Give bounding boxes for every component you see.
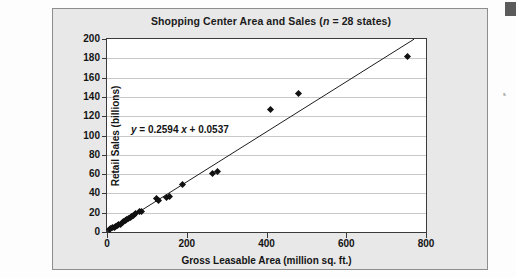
y-axis-tick-label: 80	[60, 149, 100, 160]
y-axis-tick-label: 140	[60, 91, 100, 102]
x-axis-tick-label: 0	[82, 238, 132, 249]
x-axis-tick-mark	[267, 233, 268, 238]
chart-title: Shopping Center Area and Sales (n = 28 s…	[53, 15, 489, 27]
chart-title-suffix: = 28 states)	[329, 15, 391, 27]
regression-equation-annotation: y = 0.2594 x + 0.0537	[131, 124, 229, 135]
y-axis-tick-label: 100	[60, 130, 100, 141]
y-axis-tick-label: 0	[60, 226, 100, 237]
y-axis-tick-label: 20	[60, 207, 100, 218]
figure-container: Shopping Center Area and Sales (n = 28 s…	[52, 8, 488, 270]
x-axis-tick-mark	[346, 233, 347, 238]
y-axis-tick-label: 160	[60, 72, 100, 83]
data-point	[295, 89, 302, 96]
x-axis-tick-label: 400	[242, 238, 292, 249]
equation-y-variable: y	[131, 124, 137, 135]
data-point	[404, 53, 411, 60]
x-axis-tick-mark	[187, 233, 188, 238]
x-axis-tick-mark	[426, 233, 427, 238]
data-point	[179, 181, 186, 188]
margin-marker-block	[505, 2, 516, 16]
y-axis-tick-label: 180	[60, 52, 100, 63]
data-point	[155, 197, 162, 204]
y-axis-tick-label: 120	[60, 110, 100, 121]
y-axis-tick-label: 40	[60, 187, 100, 198]
x-axis-label: Gross Leasable Area (million sq. ft.)	[107, 255, 426, 266]
y-axis-tick-label: 200	[60, 33, 100, 44]
data-points-layer	[107, 39, 426, 232]
data-point	[267, 106, 274, 113]
y-axis-label: Retail Sales (billions)	[110, 85, 121, 186]
x-axis-tick-label: 600	[321, 238, 371, 249]
x-axis-tick-label: 800	[401, 238, 451, 249]
x-axis-tick-mark	[107, 233, 108, 238]
y-axis-tick-label: 60	[60, 168, 100, 179]
chart-title-prefix: Shopping Center Area and Sales (	[151, 15, 323, 27]
data-point	[214, 168, 221, 175]
plot-area: 020406080100120140160180200 020040060080…	[106, 38, 427, 233]
x-axis-tick-label: 200	[162, 238, 212, 249]
margin-glyph: s	[503, 90, 506, 98]
equation-x-variable: x	[181, 124, 187, 135]
